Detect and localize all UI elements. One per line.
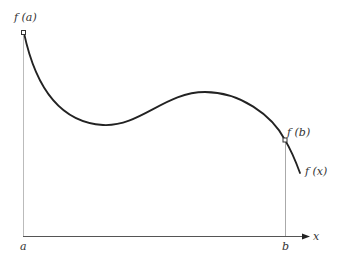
point-fa-marker bbox=[22, 31, 26, 35]
label-f-of-a: f (a) bbox=[14, 11, 37, 24]
label-f-of-x: f (x) bbox=[305, 165, 327, 178]
label-x: x bbox=[313, 230, 319, 243]
label-a: a bbox=[20, 240, 27, 253]
x-axis-arrow-icon bbox=[302, 234, 310, 240]
label-f-of-b: f (b) bbox=[287, 126, 310, 139]
function-curve bbox=[24, 33, 300, 173]
function-diagram: f (a) f (b) f (x) a b x bbox=[0, 0, 339, 263]
label-b: b bbox=[282, 240, 289, 253]
